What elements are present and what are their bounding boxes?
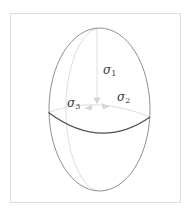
sigma2-label: σ2 bbox=[117, 91, 130, 105]
sigma1-subscript: 1 bbox=[111, 69, 116, 78]
sigma3-label: σ3 bbox=[67, 97, 80, 111]
figure-frame bbox=[11, 14, 181, 203]
hidden-equator-curve bbox=[49, 105, 151, 117]
sigma1-symbol: σ bbox=[103, 63, 111, 77]
sigma3-symbol: σ bbox=[67, 96, 75, 110]
stress-ellipsoid-figure: σ1 σ2 σ3 bbox=[0, 0, 193, 213]
sigma1-arrowhead-icon bbox=[94, 98, 101, 105]
sigma1-label: σ1 bbox=[103, 64, 116, 78]
sigma2-subscript: 2 bbox=[125, 96, 130, 105]
sigma3-subscript: 3 bbox=[75, 102, 80, 111]
sigma2-symbol: σ bbox=[117, 90, 125, 104]
ellipsoid-diagram-canvas bbox=[0, 0, 193, 213]
sigma2-arrowhead-icon bbox=[102, 103, 110, 110]
equator-front-curve bbox=[49, 113, 151, 134]
ellipsoid-outline bbox=[49, 28, 150, 191]
